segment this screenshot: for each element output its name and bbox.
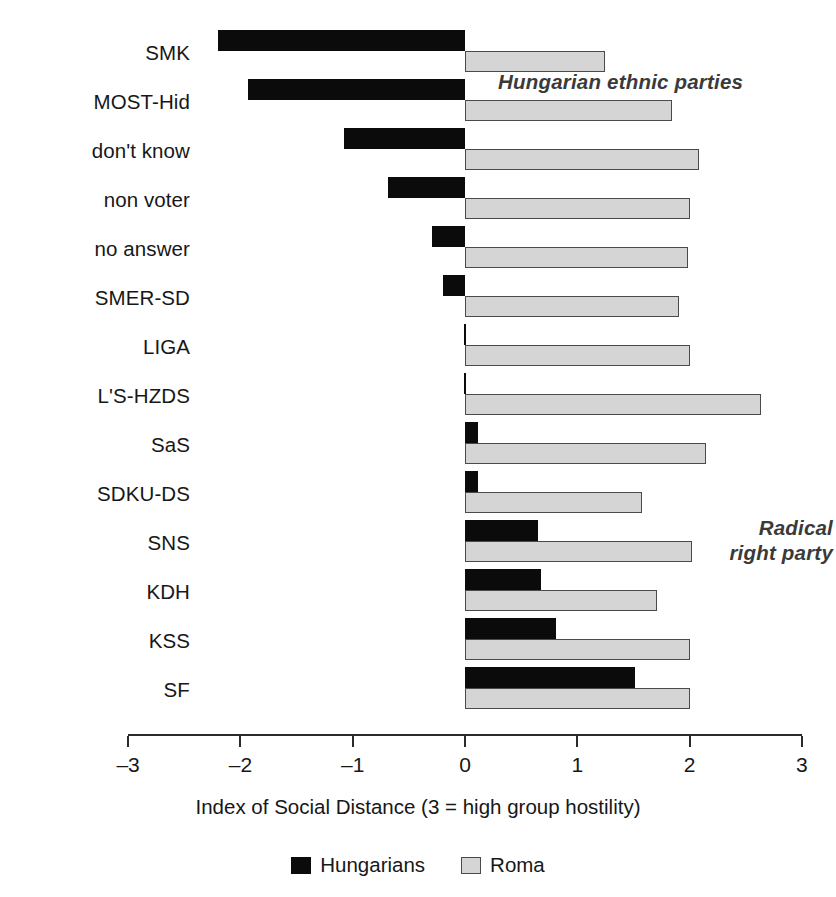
x-axis-tick	[801, 736, 803, 747]
bar-hungarians	[388, 177, 465, 198]
x-axis-tick-label: –1	[341, 753, 364, 777]
bar-roma	[465, 590, 657, 611]
legend-label-roma: Roma	[490, 853, 545, 877]
bar-hungarians	[465, 520, 538, 541]
annotation-radical-right-party: Radical right party	[729, 515, 833, 565]
chart-legend: Hungarians Roma	[0, 853, 836, 877]
legend-label-hungarians: Hungarians	[320, 853, 425, 877]
gray-square-swatch-icon	[461, 857, 481, 874]
x-axis-tick-label: 2	[684, 753, 696, 777]
x-axis: –3–2–10123	[0, 0, 836, 120]
bar-roma	[465, 541, 692, 562]
bar-hungarians	[465, 569, 541, 590]
bar-hungarians-zero	[464, 324, 466, 345]
x-axis-tick-label: –3	[116, 753, 139, 777]
social-distance-bar-chart: SMKMOST-Hiddon't knownon voterno answerS…	[0, 0, 836, 897]
bar-hungarians	[465, 471, 478, 492]
bar-roma	[465, 443, 706, 464]
bar-hungarians	[432, 226, 465, 247]
x-axis-tick	[352, 736, 354, 747]
bar-roma	[465, 149, 699, 170]
legend-item-hungarians: Hungarians	[291, 853, 425, 877]
bar-roma	[465, 492, 642, 513]
bar-hungarians	[344, 128, 465, 149]
bar-roma	[465, 198, 690, 219]
bar-hungarians-zero	[464, 373, 466, 394]
x-axis-tick-label: 3	[796, 753, 808, 777]
bar-roma	[465, 296, 679, 317]
x-axis-tick-label: 0	[459, 753, 471, 777]
x-axis-title: Index of Social Distance (3 = high group…	[0, 795, 836, 819]
bar-hungarians	[465, 667, 635, 688]
bar-roma	[465, 688, 690, 709]
x-axis-tick-label: –2	[229, 753, 252, 777]
bar-roma	[465, 345, 690, 366]
bar-hungarians	[443, 275, 465, 296]
x-axis-tick	[127, 736, 129, 747]
x-axis-tick-label: 1	[571, 753, 583, 777]
bar-roma	[465, 394, 761, 415]
bar-hungarians	[465, 618, 556, 639]
legend-item-roma: Roma	[461, 853, 545, 877]
bar-roma	[465, 639, 690, 660]
x-axis-tick	[576, 736, 578, 747]
x-axis-tick	[689, 736, 691, 747]
bar-roma	[465, 247, 688, 268]
bar-hungarians	[465, 422, 478, 443]
x-axis-tick	[464, 736, 466, 747]
x-axis-tick	[239, 736, 241, 747]
black-square-swatch-icon	[291, 857, 311, 874]
